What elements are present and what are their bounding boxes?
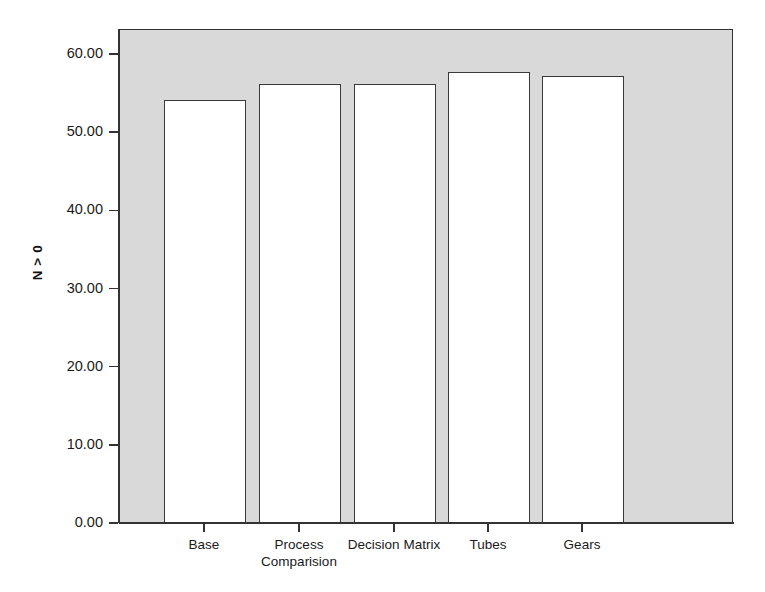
y-axis-tick bbox=[109, 210, 118, 212]
x-axis-tick-label: Base bbox=[189, 536, 220, 553]
y-axis-tick-label: 50.00 bbox=[0, 123, 103, 139]
bar bbox=[448, 72, 530, 522]
bar-chart-figure: 0.0010.0020.0030.0040.0050.0060.00 N > 0… bbox=[0, 0, 765, 592]
bars-container bbox=[120, 30, 732, 522]
y-axis-tick bbox=[109, 522, 118, 524]
y-axis-tick-label: 10.00 bbox=[0, 436, 103, 452]
y-axis-tick-label: 20.00 bbox=[0, 358, 103, 374]
y-axis-tick bbox=[109, 366, 118, 368]
x-axis-tick-label: Tubes bbox=[469, 536, 506, 553]
y-axis-line bbox=[118, 29, 120, 523]
y-axis-tick-label: 0.00 bbox=[0, 514, 103, 530]
plot-area bbox=[119, 29, 733, 523]
x-axis-tick bbox=[203, 523, 205, 532]
y-axis-tick bbox=[109, 53, 118, 55]
y-axis-tick-label: 60.00 bbox=[0, 45, 103, 61]
bar bbox=[164, 100, 246, 522]
x-axis-tick-label: Decision Matrix bbox=[348, 536, 440, 553]
x-axis-tick bbox=[487, 523, 489, 532]
bar bbox=[259, 84, 341, 522]
x-axis-line bbox=[119, 522, 734, 524]
y-axis-tick bbox=[109, 131, 118, 133]
y-axis-tick-label: 40.00 bbox=[0, 201, 103, 217]
y-axis-title: N > 0 bbox=[30, 218, 45, 308]
bar bbox=[542, 76, 624, 522]
x-axis-tick-label: Process Comparision bbox=[261, 536, 337, 570]
y-axis-tick-label: 30.00 bbox=[0, 280, 103, 296]
x-axis-tick bbox=[581, 523, 583, 532]
x-axis-tick bbox=[393, 523, 395, 532]
y-axis-tick bbox=[109, 444, 118, 446]
x-axis-tick bbox=[298, 523, 300, 532]
y-axis-tick bbox=[109, 288, 118, 290]
bar bbox=[354, 84, 436, 522]
x-axis-tick-label: Gears bbox=[564, 536, 601, 553]
